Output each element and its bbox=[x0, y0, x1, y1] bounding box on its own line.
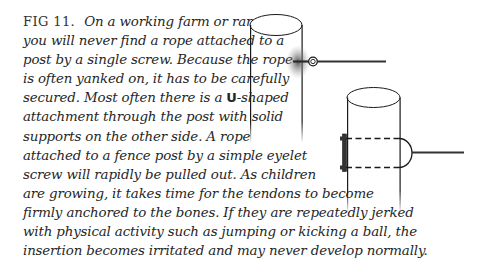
backing-plate bbox=[343, 134, 347, 172]
u-bolt-icon bbox=[340, 134, 412, 172]
post-a-left-edge bbox=[250, 25, 251, 143]
post-b-right-edge bbox=[400, 98, 401, 214]
post-u-bolt bbox=[340, 88, 464, 214]
eyelet-screw-icon bbox=[309, 57, 318, 66]
post-b-top bbox=[347, 88, 400, 108]
post-a-top bbox=[250, 15, 302, 36]
fence-post-illustration bbox=[0, 0, 481, 265]
post-b-left-edge bbox=[347, 98, 348, 214]
post-a-right-edge bbox=[302, 25, 303, 143]
post-single-screw bbox=[250, 15, 386, 144]
